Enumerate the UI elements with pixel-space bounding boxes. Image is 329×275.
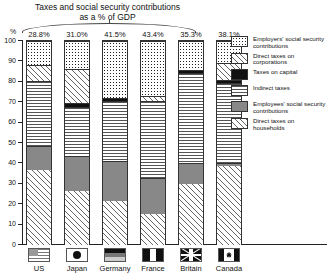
chart-title: Taxes and social security contributions … xyxy=(0,2,215,22)
y-axis-unit: % xyxy=(10,28,16,35)
bar-segment xyxy=(65,41,89,69)
chart-root: Taxes and social security contributions … xyxy=(0,0,329,275)
y-tick-label: 100 xyxy=(0,37,16,44)
bar-segment xyxy=(103,98,127,101)
legend-swatch xyxy=(231,53,248,64)
legend-label: Direct taxes on households xyxy=(253,118,327,132)
bar-segment xyxy=(217,163,241,166)
bar-segment xyxy=(65,191,89,245)
y-tick-label: 70 xyxy=(0,98,16,105)
y-tick xyxy=(18,60,22,61)
y-tick-label: 80 xyxy=(0,77,16,84)
legend-label: Indirect taxes xyxy=(253,85,327,92)
legend-swatch xyxy=(231,85,248,96)
country-label-britain: Britain xyxy=(171,264,211,273)
bar-segment xyxy=(65,103,89,107)
bar-japan xyxy=(64,40,90,244)
bar-segment xyxy=(27,146,51,169)
legend-label: Taxes on capital xyxy=(253,69,327,76)
bar-us xyxy=(26,40,52,244)
y-tick-label: 90 xyxy=(0,57,16,64)
legend-item: Employees' social security contributions xyxy=(231,101,327,115)
legend-swatch xyxy=(231,36,248,47)
bar-segment xyxy=(27,81,51,146)
britain-flag xyxy=(180,248,202,262)
country-label-germany: Germany xyxy=(95,264,135,273)
bar-segment xyxy=(141,101,165,178)
y-tick-label: 30 xyxy=(0,179,16,186)
bar-segment xyxy=(103,41,127,98)
legend-item: Direct taxes on households xyxy=(231,118,327,132)
legend-item: Taxes on capital xyxy=(231,69,327,82)
y-axis-line xyxy=(22,40,23,245)
bar-segment xyxy=(141,41,165,96)
bar-france xyxy=(140,40,166,244)
y-tick-label: 50 xyxy=(0,139,16,146)
y-tick-label: 40 xyxy=(0,159,16,166)
country-label-france: France xyxy=(133,264,173,273)
bar-segment xyxy=(179,73,203,164)
legend-label: Employees' social security contributions xyxy=(253,101,327,115)
bar-segment xyxy=(27,65,51,80)
bar-segment xyxy=(103,161,127,201)
y-tick-label: 10 xyxy=(0,220,16,227)
bar-value-label: 41.5% xyxy=(95,30,135,39)
country-label-canada: Canada xyxy=(209,264,249,273)
y-tick xyxy=(18,40,22,41)
y-tick xyxy=(18,142,22,143)
bar-segment xyxy=(179,41,203,70)
bar-segment xyxy=(65,156,89,191)
bar-britain xyxy=(178,40,204,244)
chart-legend: Employers' social security contributions… xyxy=(231,36,327,134)
y-tick-label: 0 xyxy=(0,241,16,248)
y-tick xyxy=(18,183,22,184)
bar-segment xyxy=(141,178,165,215)
bar-segment xyxy=(65,107,89,156)
bar-segment xyxy=(27,41,51,65)
us-flag xyxy=(28,248,50,262)
y-tick xyxy=(18,244,22,245)
country-label-japan: Japan xyxy=(57,264,97,273)
y-tick xyxy=(18,203,22,204)
bar-value-label: 31.0% xyxy=(57,30,97,39)
france-flag xyxy=(142,248,164,262)
legend-label: Employers' social security contributions xyxy=(253,36,327,50)
y-tick xyxy=(18,101,22,102)
bar-segment xyxy=(179,70,203,73)
bar-segment xyxy=(103,201,127,245)
bar-value-label: 35.3% xyxy=(171,30,211,39)
legend-item: Direct taxes on corporations xyxy=(231,53,327,67)
bar-segment xyxy=(27,170,51,245)
bar-segment xyxy=(179,163,203,183)
bar-value-label: 28.8% xyxy=(19,30,59,39)
legend-swatch xyxy=(231,101,248,112)
y-tick xyxy=(18,224,22,225)
country-label-us: US xyxy=(19,264,59,273)
germany-flag xyxy=(104,248,126,262)
bar-segment xyxy=(179,184,203,245)
bar-segment xyxy=(103,101,127,161)
bar-segment xyxy=(141,96,165,101)
bar-segment xyxy=(217,166,241,245)
bar-value-label: 43.4% xyxy=(133,30,173,39)
legend-item: Indirect taxes xyxy=(231,85,327,98)
legend-swatch xyxy=(231,69,248,80)
chart-title-line1: Taxes and social security contributions xyxy=(0,2,215,12)
y-tick xyxy=(18,122,22,123)
bar-segment xyxy=(65,69,89,104)
bar-segment xyxy=(141,214,165,245)
bar-germany xyxy=(102,40,128,244)
chart-title-line2: as a % of GDP xyxy=(0,12,215,22)
y-tick-label: 60 xyxy=(0,118,16,125)
canada-flag xyxy=(218,248,240,262)
y-tick xyxy=(18,162,22,163)
y-tick xyxy=(18,81,22,82)
legend-item: Employers' social security contributions xyxy=(231,36,327,50)
legend-swatch xyxy=(231,118,248,129)
japan-flag xyxy=(66,248,88,262)
legend-label: Direct taxes on corporations xyxy=(253,53,327,67)
y-tick-label: 20 xyxy=(0,200,16,207)
